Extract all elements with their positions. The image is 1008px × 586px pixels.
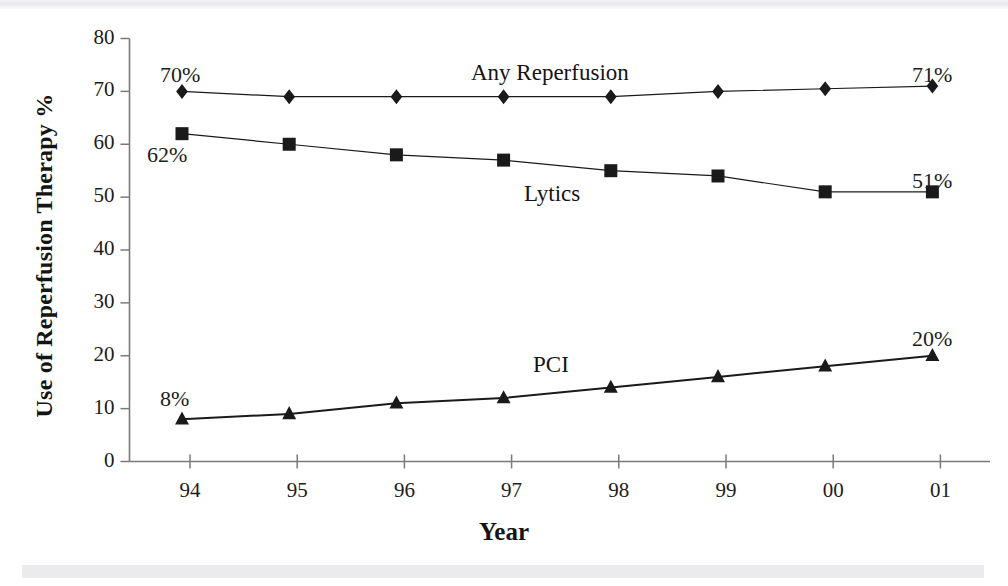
x-tick-label: 96 bbox=[374, 478, 434, 503]
y-tick-label: 80 bbox=[69, 25, 115, 50]
y-tick-label: 30 bbox=[69, 289, 115, 314]
data-point-marker-diamond bbox=[391, 89, 403, 104]
y-tick-label: 40 bbox=[69, 236, 115, 261]
x-tick-label: 94 bbox=[160, 478, 220, 503]
chart-figure: Use of Reperfusion Therapy % Year 807060… bbox=[0, 0, 1008, 586]
x-tick-label: 00 bbox=[803, 478, 863, 503]
data-point-marker-diamond bbox=[283, 89, 295, 104]
annotation-pci-94: 8% bbox=[160, 386, 189, 412]
series-label-pci: PCI bbox=[533, 352, 569, 378]
y-tick-label: 10 bbox=[69, 395, 115, 420]
data-point-marker-square bbox=[390, 148, 403, 161]
data-point-marker-diamond bbox=[605, 89, 617, 104]
data-point-marker-triangle bbox=[175, 411, 189, 424]
annotation-lytics-94: 62% bbox=[147, 142, 187, 168]
annotation-any-reperfusion-01: 71% bbox=[912, 62, 952, 88]
y-tick-label: 50 bbox=[69, 183, 115, 208]
plot-area: Use of Reperfusion Therapy % Year 807060… bbox=[0, 0, 1008, 586]
series-label-lytics: Lytics bbox=[524, 181, 580, 207]
data-point-marker-square bbox=[283, 138, 296, 151]
x-tick-label: 97 bbox=[482, 478, 542, 503]
y-tick-label: 60 bbox=[69, 130, 115, 155]
axis-lines bbox=[130, 39, 991, 462]
x-tick-label: 99 bbox=[696, 478, 756, 503]
x-axis-title: Year bbox=[0, 518, 1008, 546]
data-point-marker-square bbox=[497, 154, 510, 167]
data-point-marker-triangle bbox=[389, 396, 403, 409]
y-tick-label: 20 bbox=[69, 342, 115, 367]
x-tick-label: 98 bbox=[589, 478, 649, 503]
data-point-marker-diamond bbox=[498, 89, 510, 104]
annotation-any-reperfusion-94: 70% bbox=[160, 62, 200, 88]
data-point-marker-square bbox=[712, 169, 725, 182]
data-point-marker-square bbox=[604, 164, 617, 177]
y-axis-title: Use of Reperfusion Therapy % bbox=[31, 36, 58, 476]
series-line-any-reperfusion bbox=[182, 86, 932, 97]
x-tick-label: 95 bbox=[267, 478, 327, 503]
y-tick-label: 70 bbox=[69, 77, 115, 102]
data-point-marker-square bbox=[819, 185, 832, 198]
data-point-marker-diamond bbox=[819, 81, 831, 96]
x-tick-label: 01 bbox=[910, 478, 970, 503]
annotation-pci-01: 20% bbox=[912, 326, 952, 352]
annotation-lytics-01: 51% bbox=[912, 168, 952, 194]
data-point-marker-diamond bbox=[712, 84, 724, 99]
series-label-any-reperfusion: Any Reperfusion bbox=[471, 60, 629, 86]
y-axis-ticks bbox=[121, 39, 130, 462]
y-tick-label: 0 bbox=[69, 448, 115, 473]
data-point-marker-square bbox=[176, 127, 189, 140]
